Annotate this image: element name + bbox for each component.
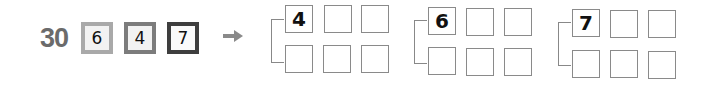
answer-cell[interactable] xyxy=(361,45,389,73)
bracket-line xyxy=(558,22,571,66)
bracket-line xyxy=(414,20,427,64)
answer-cell[interactable] xyxy=(361,5,389,33)
answer-cell[interactable]: 6 xyxy=(428,7,456,35)
answer-cell[interactable] xyxy=(323,45,351,73)
answer-cell[interactable] xyxy=(504,48,532,76)
answer-cell[interactable] xyxy=(648,10,676,38)
bracket-line xyxy=(271,19,284,63)
right-arrow-icon xyxy=(223,30,243,42)
answer-group-2: 6 xyxy=(414,4,554,79)
answer-cell[interactable] xyxy=(428,47,456,75)
answer-cell[interactable] xyxy=(466,8,494,36)
answer-cell[interactable] xyxy=(466,48,494,76)
answer-cell[interactable] xyxy=(324,5,352,33)
answer-cell[interactable] xyxy=(285,45,313,73)
answer-cell[interactable]: 7 xyxy=(572,9,600,37)
answer-cell[interactable] xyxy=(610,10,638,38)
answer-cell[interactable]: 4 xyxy=(285,5,313,33)
answer-group-1: 4 xyxy=(271,4,411,79)
answer-group-3: 7 xyxy=(558,4,698,79)
digit-card-2: 4 xyxy=(124,22,156,54)
digit-card-1: 6 xyxy=(81,22,113,54)
answer-cell[interactable] xyxy=(610,50,638,78)
answer-cell[interactable] xyxy=(648,51,676,79)
answer-cell[interactable] xyxy=(572,50,600,78)
answer-cell[interactable] xyxy=(504,8,532,36)
target-number: 30 xyxy=(40,20,68,56)
digit-card-3: 7 xyxy=(167,22,199,54)
